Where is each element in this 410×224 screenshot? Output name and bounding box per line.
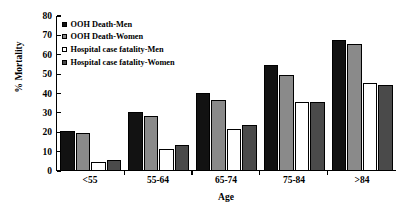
bar bbox=[295, 102, 310, 170]
bar bbox=[310, 102, 325, 170]
bar bbox=[211, 100, 226, 170]
bar-group bbox=[260, 16, 328, 170]
bar bbox=[107, 160, 122, 170]
bar-chart: % Mortality 01020304050607080 <5555-6465… bbox=[0, 0, 410, 224]
legend-swatch-icon bbox=[62, 47, 67, 52]
legend-label: OOH Death-Women bbox=[71, 32, 144, 41]
legend-label: OOH Death-Men bbox=[71, 20, 133, 29]
bar bbox=[60, 131, 75, 170]
bar bbox=[378, 85, 393, 170]
bar bbox=[76, 133, 91, 170]
x-axis-category-label: 55-64 bbox=[124, 175, 192, 185]
bar-group bbox=[193, 16, 261, 170]
legend-swatch-icon bbox=[62, 34, 67, 39]
bar bbox=[363, 83, 378, 170]
bar bbox=[144, 116, 159, 170]
bar-group bbox=[328, 16, 396, 170]
bar bbox=[128, 112, 143, 170]
bar bbox=[242, 125, 257, 170]
bar bbox=[264, 65, 279, 170]
bar bbox=[91, 162, 106, 170]
bar bbox=[347, 44, 362, 170]
legend-item: Hospital case fatality-Women bbox=[62, 56, 175, 69]
legend-swatch-icon bbox=[62, 60, 67, 65]
legend-item: Hospital case fatality-Men bbox=[62, 43, 175, 56]
x-axis-tick-labels: <5555-6465-7475-84>84 bbox=[56, 175, 396, 185]
legend-label: Hospital case fatality-Women bbox=[71, 58, 175, 67]
legend-label: Hospital case fatality-Men bbox=[71, 45, 164, 54]
bar bbox=[227, 129, 242, 170]
bar bbox=[332, 40, 347, 170]
x-axis-title: Age bbox=[56, 192, 396, 202]
x-axis-category-label: 75-84 bbox=[260, 175, 328, 185]
x-axis-category-label: <55 bbox=[56, 175, 124, 185]
legend-item: OOH Death-Women bbox=[62, 31, 175, 44]
chart-legend: OOH Death-MenOOH Death-WomenHospital cas… bbox=[62, 18, 175, 68]
x-axis-category-label: 65-74 bbox=[192, 175, 260, 185]
legend-swatch-icon bbox=[62, 22, 67, 27]
bar bbox=[175, 145, 190, 170]
x-axis-category-label: >84 bbox=[328, 175, 396, 185]
y-axis-title: % Mortality bbox=[14, 12, 24, 122]
bar bbox=[159, 149, 174, 170]
bar bbox=[196, 93, 211, 171]
legend-item: OOH Death-Men bbox=[62, 18, 175, 31]
bar bbox=[279, 75, 294, 170]
